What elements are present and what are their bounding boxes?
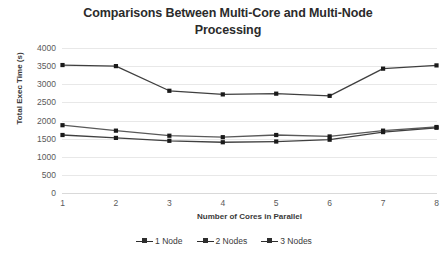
legend-item-3-nodes[interactable]: 3 Nodes — [261, 236, 312, 246]
y-tick-label: 3000 — [20, 79, 56, 89]
data-point-marker — [381, 67, 385, 71]
legend-label: 3 Nodes — [280, 236, 312, 246]
x-tick-label: 6 — [315, 198, 345, 209]
chart-title-line-1: Comparisons Between Multi-Core and Multi… — [83, 6, 372, 20]
chart-container: Comparisons Between Multi-Core and Multi… — [0, 0, 448, 264]
plot-area — [62, 48, 437, 193]
data-point-marker — [434, 125, 438, 129]
data-point-marker — [60, 63, 64, 67]
legend-marker-icon — [136, 237, 153, 245]
y-axis-tick-labels: 40003500300025002000150010005000 — [20, 41, 56, 201]
data-point-marker — [274, 139, 278, 143]
data-point-marker — [167, 134, 171, 138]
data-point-marker — [114, 136, 118, 140]
data-point-marker — [221, 140, 225, 144]
chart-title-line-2: Processing — [58, 22, 398, 39]
data-point-marker — [114, 64, 118, 68]
series-line — [63, 125, 437, 137]
x-tick-label: 7 — [368, 198, 398, 209]
legend-item-2-nodes[interactable]: 2 Nodes — [197, 236, 248, 246]
x-tick-label: 5 — [261, 198, 291, 209]
y-tick-label: 3500 — [20, 61, 56, 71]
x-tick-label: 3 — [154, 198, 184, 209]
data-point-marker — [274, 133, 278, 137]
x-tick-label: 1 — [48, 198, 78, 209]
series-line — [63, 128, 437, 143]
data-point-marker — [60, 123, 64, 127]
x-tick-label: 2 — [101, 198, 131, 209]
x-tick-label: 8 — [422, 198, 448, 209]
x-axis-tick-labels: 12345678 — [62, 198, 437, 210]
chart-title: Comparisons Between Multi-Core and Multi… — [58, 5, 398, 39]
y-axis-title: Total Exec Time (s) — [15, 39, 24, 139]
legend-marker-icon — [197, 237, 214, 245]
data-point-marker — [274, 92, 278, 96]
series-layer — [62, 48, 437, 193]
data-point-marker — [114, 129, 118, 133]
legend-item-1-node[interactable]: 1 Node — [136, 236, 182, 246]
data-point-marker — [167, 139, 171, 143]
gridline — [62, 193, 437, 194]
y-tick-label: 1500 — [20, 134, 56, 144]
series-3-nodes — [60, 63, 438, 98]
data-point-marker — [167, 89, 171, 93]
y-tick-label: 0 — [20, 188, 56, 198]
data-point-marker — [434, 63, 438, 67]
y-tick-label: 2500 — [20, 97, 56, 107]
data-point-marker — [221, 135, 225, 139]
data-point-marker — [221, 92, 225, 96]
y-tick-label: 4000 — [20, 43, 56, 53]
series-line — [63, 65, 437, 96]
y-tick-label: 1000 — [20, 152, 56, 162]
legend-label: 1 Node — [155, 236, 182, 246]
y-tick-label: 2000 — [20, 116, 56, 126]
legend-label: 2 Nodes — [216, 236, 248, 246]
x-axis-title: Number of Cores in Parallel — [62, 212, 437, 221]
data-point-marker — [328, 134, 332, 138]
series-1-node — [60, 126, 438, 145]
data-point-marker — [328, 94, 332, 98]
chart-legend: 1 Node2 Nodes3 Nodes — [0, 236, 448, 246]
legend-marker-icon — [261, 237, 278, 245]
data-point-marker — [381, 129, 385, 133]
x-tick-label: 4 — [208, 198, 238, 209]
y-tick-label: 500 — [20, 170, 56, 180]
data-point-marker — [60, 133, 64, 137]
